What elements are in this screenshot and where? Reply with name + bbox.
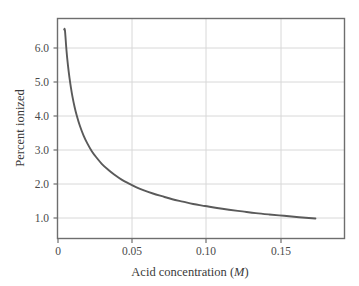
ytick-label-4: 4.0	[35, 110, 50, 122]
x-tick-labels: 0 0.05 0.10 0.15	[55, 245, 291, 257]
ytick-label-1: 1.0	[35, 212, 50, 224]
xtick-label-010: 0.10	[196, 245, 216, 257]
x-axis-title-unit: M	[233, 265, 245, 279]
figure-container: 6.0 5.0 4.0 3.0 2.0 1.0 0 0.05 0.10 0.15…	[0, 0, 359, 286]
xtick-label-005: 0.05	[122, 245, 142, 257]
y-tick-labels: 6.0 5.0 4.0 3.0 2.0 1.0	[35, 42, 50, 224]
ytick-label-5: 5.0	[35, 76, 50, 88]
ytick-label-3: 3.0	[35, 144, 50, 156]
xtick-label-0: 0	[55, 245, 61, 257]
x-axis-title-text: Acid concentration (M)	[131, 265, 248, 279]
ytick-label-6: 6.0	[35, 42, 50, 54]
percent-ionized-chart: 6.0 5.0 4.0 3.0 2.0 1.0 0 0.05 0.10 0.15…	[0, 0, 359, 286]
xtick-label-015: 0.15	[271, 245, 291, 257]
x-axis-title: Acid concentration (M)	[131, 265, 248, 279]
ytick-label-2: 2.0	[35, 178, 50, 190]
y-axis-title: Percent ionized	[13, 89, 27, 167]
x-axis-title-main: Acid concentration	[131, 265, 227, 279]
x-axis-title-paren-close: )	[245, 265, 249, 279]
